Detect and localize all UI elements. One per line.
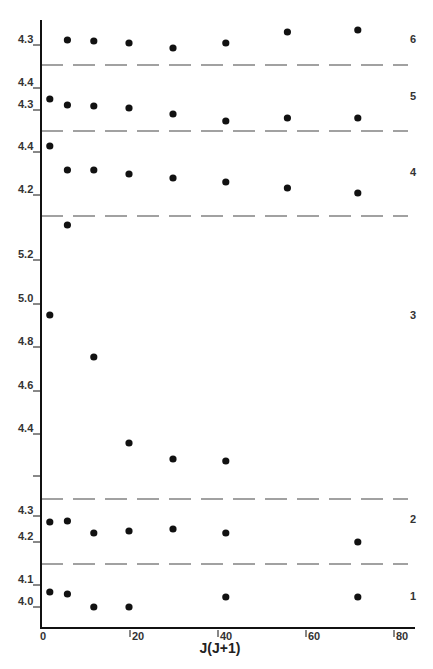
y-tick-label: 4.2 [18, 183, 33, 195]
data-point [125, 170, 132, 177]
panel-separators [41, 65, 408, 564]
data-point [125, 439, 132, 446]
data-point [354, 26, 361, 33]
data-point [90, 166, 97, 173]
data-point [125, 104, 132, 111]
y-tick-label: 4.4 [18, 422, 34, 434]
data-point [354, 189, 361, 196]
data-point [354, 538, 361, 545]
panel-label: 1 [410, 590, 416, 602]
y-tick-label: 5.2 [18, 248, 33, 260]
data-point [222, 529, 229, 536]
data-point [222, 178, 229, 185]
data-point [354, 593, 361, 600]
data-point [169, 174, 176, 181]
data-point [222, 457, 229, 464]
data-point [46, 518, 53, 525]
data-point [90, 102, 97, 109]
data-point [169, 44, 176, 51]
x-tick-label: 60 [308, 630, 320, 642]
panel-label: 3 [410, 309, 416, 321]
axes [41, 20, 415, 629]
data-point [90, 353, 97, 360]
data-point [64, 101, 71, 108]
y-tick-label: 4.3 [18, 33, 33, 45]
x-tick-label: 80 [396, 630, 408, 642]
data-point [222, 593, 229, 600]
y-tick-label: 4.3 [18, 98, 33, 110]
data-point [284, 28, 291, 35]
scatter-chart: 4.34.44.34.44.25.25.04.84.64.44.34.24.14… [0, 0, 433, 669]
data-points [46, 26, 361, 610]
data-point [169, 455, 176, 462]
data-point [169, 525, 176, 532]
panel-label: 6 [410, 33, 416, 45]
data-point [46, 142, 53, 149]
panel-label: 4 [410, 166, 417, 178]
data-point [222, 39, 229, 46]
data-point [284, 184, 291, 191]
data-point [90, 37, 97, 44]
y-tick-label: 4.8 [18, 335, 33, 347]
y-axis-ticks: 4.34.44.34.44.25.25.04.84.64.44.34.24.14… [18, 33, 41, 607]
data-point [64, 517, 71, 524]
y-tick-label: 4.3 [18, 504, 33, 516]
data-point [64, 166, 71, 173]
data-point [169, 110, 176, 117]
data-point [90, 529, 97, 536]
x-axis-title: J(J+1) [200, 640, 241, 656]
data-point [222, 117, 229, 124]
data-point [64, 36, 71, 43]
panel-labels: 654321 [410, 33, 417, 602]
y-tick-label: 5.0 [18, 292, 33, 304]
data-point [284, 114, 291, 121]
data-point [46, 311, 53, 318]
data-point [64, 590, 71, 597]
y-tick-label: 4.2 [18, 530, 33, 542]
y-tick-label: 4.4 [18, 76, 34, 88]
data-point [125, 603, 132, 610]
panel-label: 5 [410, 90, 416, 102]
x-tick-label: 20 [132, 630, 144, 642]
data-point [46, 95, 53, 102]
y-tick-label: 4.1 [18, 573, 33, 585]
panel-label: 2 [410, 513, 416, 525]
y-tick-label: 4.6 [18, 379, 33, 391]
data-point [46, 588, 53, 595]
x-tick-label: 0 [40, 630, 46, 642]
data-point [354, 114, 361, 121]
data-point [64, 221, 71, 228]
data-point [90, 603, 97, 610]
data-point [125, 39, 132, 46]
y-tick-label: 4.4 [18, 140, 34, 152]
data-point [125, 527, 132, 534]
y-tick-label: 4.0 [18, 595, 33, 607]
